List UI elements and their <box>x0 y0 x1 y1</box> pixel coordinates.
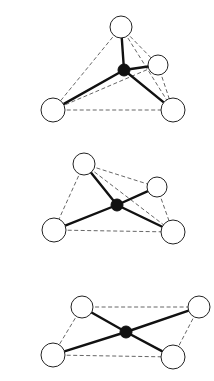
polyhedron-edge-top-bottom-left <box>58 32 117 104</box>
ligand-atom-top-left <box>73 153 95 175</box>
central-atom <box>111 199 123 211</box>
central-atom <box>118 64 130 76</box>
ligand-atom-right-back <box>148 55 168 75</box>
polyhedron-edge-bottom-left-bottom-right <box>60 355 166 357</box>
ligand-atom-bottom-right <box>161 98 185 122</box>
figure-distorted <box>42 153 185 244</box>
ligand-atom-bottom-left <box>41 343 65 367</box>
bond-bottom-left <box>63 70 124 104</box>
bond-bottom-left <box>65 205 117 226</box>
polyhedron-edge-top-left-bottom-left <box>57 313 79 349</box>
bond-top-right <box>126 311 189 332</box>
bond-bottom-left <box>64 332 126 351</box>
polyhedron-edge-bottom-left-bottom-right <box>61 230 166 232</box>
bond-bottom-right <box>117 205 162 227</box>
figure-square-planar <box>41 296 210 369</box>
polyhedron-edge-top-left-bottom-left <box>57 170 81 223</box>
ligand-atom-bottom-left <box>41 98 65 122</box>
figure-tetrahedral <box>41 16 185 122</box>
ligand-atom-top-right <box>188 296 210 318</box>
ligand-atom-right <box>147 177 167 197</box>
ligand-atom-bottom-right <box>161 220 185 244</box>
coordination-geometry-diagram <box>0 0 214 381</box>
ligand-atom-bottom-left <box>42 218 66 242</box>
polyhedron-edge-bottom-left-right-back <box>60 67 153 107</box>
polyhedron-edge-top-right-bottom-right <box>176 313 196 351</box>
ligand-atom-bottom-right <box>161 345 185 369</box>
ligand-atom-top <box>110 16 132 38</box>
ligand-atom-top-left <box>71 296 93 318</box>
central-atom <box>120 326 132 338</box>
